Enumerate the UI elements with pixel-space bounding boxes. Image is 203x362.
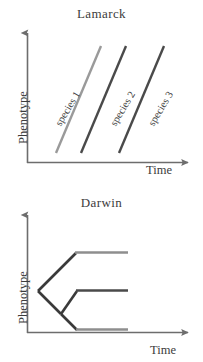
darwin-panel: Darwin Phenotype Time species 1 species … — [0, 181, 203, 362]
darwin-branch-internal-to-species-3 — [61, 314, 77, 330]
darwin-chart-title: Darwin — [0, 195, 203, 211]
lamarck-y-axis-label: Phenotype — [16, 91, 31, 144]
lamarck-panel: Lamarck Phenotype Time species 1 species… — [0, 0, 203, 181]
darwin-branch-root-to-internal — [38, 291, 61, 314]
darwin-y-axis-label: Phenotype — [16, 271, 31, 324]
lamarck-x-axis-label: Time — [146, 163, 172, 178]
darwin-branch-root-to-species-1 — [38, 253, 76, 291]
lamarck-chart-title: Lamarck — [0, 6, 203, 22]
darwin-branch-internal-to-species-2 — [61, 291, 77, 314]
figure-container: Lamarck Phenotype Time species 1 species… — [0, 0, 203, 362]
lamarck-line-species-2 — [81, 46, 126, 153]
darwin-x-axis-label: Time — [150, 343, 176, 358]
